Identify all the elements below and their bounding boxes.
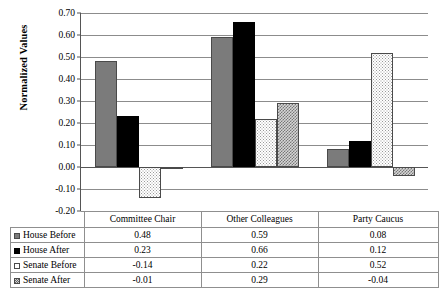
gridline: [81, 57, 428, 58]
y-tick-label: 0.50: [58, 52, 75, 62]
gridline: [81, 167, 428, 168]
y-tick-label: 0.00: [58, 162, 75, 172]
value-cell: -0.04: [318, 273, 438, 288]
bar-senate-before-other-colleagues: [255, 119, 277, 167]
value-cell: 0.08: [318, 228, 438, 243]
y-tick-label: 0.40: [58, 74, 75, 84]
bar-senate-before-committee-chair: [139, 167, 161, 198]
y-tick-label: 0.70: [58, 8, 75, 18]
y-tick-mark: [77, 35, 81, 36]
bar-senate-after-other-colleagues: [277, 103, 299, 167]
gridline: [81, 101, 428, 102]
value-cell: 0.66: [201, 243, 318, 258]
column-header-other-colleagues: Other Colleagues: [201, 212, 318, 228]
legend-item-house-before[interactable]: House Before: [11, 228, 85, 243]
legend-item-house-after[interactable]: House After: [11, 243, 85, 258]
gridline: [81, 145, 428, 146]
legend-swatch-icon: [14, 278, 20, 284]
table-row: House Before0.480.590.08: [11, 228, 439, 243]
gridline: [81, 35, 428, 36]
legend-swatch-icon: [14, 248, 20, 254]
y-tick-mark: [77, 189, 81, 190]
value-cell: 0.23: [84, 243, 201, 258]
legend-swatch-icon: [14, 263, 20, 269]
y-tick-label: -0.10: [55, 184, 75, 194]
y-tick-mark: [77, 123, 81, 124]
value-cell: 0.29: [201, 273, 318, 288]
y-tick-label: 0.30: [58, 96, 75, 106]
legend-swatch-icon: [14, 233, 20, 239]
value-cell: 0.52: [318, 258, 438, 273]
column-header-party-caucus: Party Caucus: [318, 212, 438, 228]
y-tick-mark: [77, 167, 81, 168]
bar-senate-before-party-caucus: [371, 53, 393, 167]
table-header-row: Committee ChairOther ColleaguesParty Cau…: [11, 212, 439, 228]
gridline: [81, 79, 428, 80]
y-tick-label: 0.10: [58, 140, 75, 150]
bar-house-before-committee-chair: [95, 61, 117, 167]
value-cell: 0.48: [84, 228, 201, 243]
table-row: Senate After-0.010.29-0.04: [11, 273, 439, 288]
data-table: Committee ChairOther ColleaguesParty Cau…: [10, 211, 439, 288]
bar-senate-after-party-caucus: [393, 167, 415, 176]
value-cell: 0.59: [201, 228, 318, 243]
bars-layer: [81, 13, 428, 211]
y-tick-mark: [77, 145, 81, 146]
table-row: Senate Before-0.140.220.52: [11, 258, 439, 273]
bar-house-before-party-caucus: [327, 149, 349, 167]
y-tick-label: 0.60: [58, 30, 75, 40]
legend-item-senate-before[interactable]: Senate Before: [11, 258, 85, 273]
y-axis-title: Normalized Values: [18, 8, 29, 128]
table-corner-cell: [11, 212, 85, 228]
legend-item-senate-after[interactable]: Senate After: [11, 273, 85, 288]
value-cell: 0.12: [318, 243, 438, 258]
value-cell: -0.01: [84, 273, 201, 288]
y-tick-mark: [77, 79, 81, 80]
y-tick-mark: [77, 13, 81, 14]
gridline: [81, 123, 428, 124]
legend-label: House After: [23, 245, 69, 255]
plot-area: 0.700.600.500.400.300.200.100.00-0.10-0.…: [80, 13, 428, 211]
y-tick-mark: [77, 57, 81, 58]
y-tick-label: 0.20: [58, 118, 75, 128]
gridline: [81, 13, 428, 14]
table-row: House After0.230.660.12: [11, 243, 439, 258]
legend-label: Senate After: [23, 275, 70, 285]
legend-label: House Before: [23, 230, 76, 240]
legend-label: Senate Before: [23, 260, 77, 270]
y-tick-mark: [77, 101, 81, 102]
gridline: [81, 189, 428, 190]
value-cell: -0.14: [84, 258, 201, 273]
value-cell: 0.22: [201, 258, 318, 273]
column-header-committee-chair: Committee Chair: [84, 212, 201, 228]
